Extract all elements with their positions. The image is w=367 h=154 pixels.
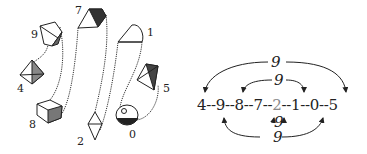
die-8-icon xyxy=(37,100,62,123)
seq-separator: -- xyxy=(319,96,329,114)
dice-diagram xyxy=(0,0,367,154)
die-label: 7 xyxy=(75,4,82,17)
die-5-icon xyxy=(137,64,158,90)
seq-item: 7 xyxy=(253,96,262,114)
seq-item: 5 xyxy=(329,96,338,114)
arc-label-outer-bottom: 9 xyxy=(273,128,283,146)
arc-label-outer-top: 9 xyxy=(271,53,281,71)
seq-separator: -- xyxy=(281,96,291,114)
seq-separator: -- xyxy=(300,96,310,114)
seq-item: 9 xyxy=(216,96,225,114)
seq-item: 0 xyxy=(310,96,319,114)
diagram: 7 1 9 4 5 8 0 2 4--9--8--7--2--1--0--5 9… xyxy=(0,0,367,154)
die-1-icon xyxy=(118,25,143,42)
die-2-icon xyxy=(88,112,102,140)
seq-separator: -- xyxy=(263,96,273,114)
seq-item: 8 xyxy=(235,96,244,114)
seq-separator: -- xyxy=(244,96,254,114)
die-label: 2 xyxy=(77,135,84,148)
number-sequence: 4--9--8--7--2--1--0--5 xyxy=(197,96,338,114)
seq-item: 4 xyxy=(197,96,206,114)
seq-separator: -- xyxy=(206,96,216,114)
die-4-icon xyxy=(20,60,44,84)
seq-separator: -- xyxy=(225,96,235,114)
die-0-icon xyxy=(116,105,138,125)
die-label: 8 xyxy=(29,118,36,131)
die-label: 0 xyxy=(129,128,136,141)
die-label: 9 xyxy=(31,28,38,41)
arc-label-inner-top: 9 xyxy=(274,71,284,89)
die-label: 1 xyxy=(147,26,154,39)
die-7-icon xyxy=(78,9,106,28)
seq-item: 1 xyxy=(291,96,300,114)
die-label: 4 xyxy=(17,82,24,95)
die-9-icon xyxy=(40,22,62,46)
die-label: 5 xyxy=(163,82,170,95)
